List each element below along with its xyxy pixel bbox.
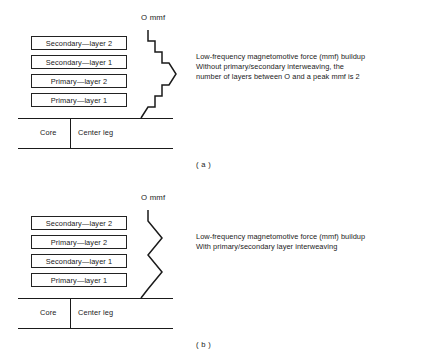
mmf-curve-path: [141, 210, 162, 298]
figure-caption: ( b ): [196, 340, 211, 349]
mmf-curve-path: [141, 30, 176, 118]
description-line: Low-frequency magnetomotive force (mmf) …: [196, 232, 365, 242]
description-line: Without primary/secondary interweaving, …: [196, 62, 344, 72]
figure-a: O mmf Secondary—layer 2 Secondary—layer …: [0, 0, 426, 180]
mmf-curve-a: [0, 0, 426, 180]
figure-b: O mmf Secondary—layer 2 Primary—layer 2 …: [0, 180, 426, 360]
description-line: Low-frequency magnetomotive force (mmf) …: [196, 52, 365, 62]
figure-caption: ( a ): [196, 160, 211, 169]
mmf-curve-b: [0, 180, 426, 360]
description-line: number of layers between O and a peak mm…: [196, 72, 360, 82]
description-line: With primary/secondary layer interweavin…: [196, 242, 337, 252]
